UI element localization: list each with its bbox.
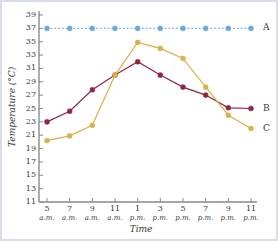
y-tick-label: 19 xyxy=(14,144,36,153)
data-point-C xyxy=(67,134,72,139)
data-point-C xyxy=(158,46,163,51)
series-label-C: C xyxy=(263,123,270,133)
data-point-B xyxy=(45,120,50,125)
data-point-C xyxy=(203,85,208,90)
data-point-A xyxy=(158,26,163,31)
data-point-C xyxy=(135,40,140,45)
data-point-A xyxy=(181,26,186,31)
y-tick-label: 39 xyxy=(14,10,36,19)
y-tick-label: 31 xyxy=(14,63,36,72)
y-tick-label: 11 xyxy=(14,197,36,206)
data-point-A xyxy=(203,26,208,31)
y-tick-label: 25 xyxy=(14,104,36,113)
data-point-C xyxy=(249,126,254,131)
series-label-A: A xyxy=(263,22,270,32)
data-point-B xyxy=(226,106,231,111)
data-point-C xyxy=(226,113,231,118)
y-tick-label: 29 xyxy=(14,77,36,86)
y-tick-label: 17 xyxy=(14,157,36,166)
y-tick-label: 27 xyxy=(14,90,36,99)
data-point-A xyxy=(45,26,50,31)
data-point-C xyxy=(90,123,95,128)
data-point-A xyxy=(113,26,118,31)
y-tick-label: 33 xyxy=(14,50,36,59)
data-point-B xyxy=(249,106,254,111)
data-point-B xyxy=(90,88,95,93)
y-tick-label: 35 xyxy=(14,37,36,46)
data-point-B xyxy=(158,73,163,78)
data-point-C xyxy=(113,73,118,78)
y-tick-label: 23 xyxy=(14,117,36,126)
chart-frame: Temperature (°C) Time 111315171921232527… xyxy=(0,0,278,241)
y-tick-label: 37 xyxy=(14,23,36,32)
data-point-A xyxy=(135,26,140,31)
y-tick-label: 21 xyxy=(14,130,36,139)
data-point-A xyxy=(226,26,231,31)
data-point-A xyxy=(90,26,95,31)
y-tick-label: 13 xyxy=(14,184,36,193)
y-tick-label: 15 xyxy=(14,170,36,179)
data-point-B xyxy=(135,60,140,65)
x-tick-hour: 11 xyxy=(238,204,264,214)
data-point-A xyxy=(67,26,72,31)
x-tick-meridiem: p.m. xyxy=(238,214,264,223)
series-label-B: B xyxy=(263,103,270,113)
data-point-B xyxy=(67,109,72,114)
data-point-C xyxy=(45,138,50,143)
series-line-C xyxy=(47,42,251,140)
data-point-B xyxy=(181,85,186,90)
data-point-B xyxy=(203,93,208,98)
x-tick-label: 11p.m. xyxy=(238,204,264,223)
data-point-A xyxy=(249,26,254,31)
series-line-B xyxy=(47,62,251,122)
x-axis-title: Time xyxy=(2,224,278,234)
data-point-C xyxy=(181,56,186,61)
